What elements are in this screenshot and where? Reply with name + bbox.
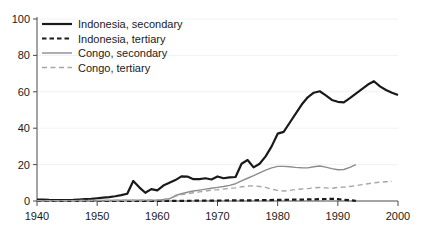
y-tick-label: 60 — [18, 86, 30, 98]
x-tick-label: 1960 — [145, 210, 169, 222]
x-tick-label: 1950 — [85, 210, 109, 222]
series-line-3 — [37, 181, 392, 200]
y-axis-ticks: 020406080100 — [12, 13, 37, 207]
x-tick-label: 1980 — [265, 210, 289, 222]
line-chart: 020406080100 194019501960197019801990200… — [0, 0, 427, 246]
axes — [37, 17, 398, 201]
series-line-2 — [37, 165, 356, 201]
legend-label-1: Indonesia, tertiary — [78, 33, 166, 45]
y-tick-label: 100 — [12, 13, 30, 25]
x-tick-label: 2000 — [386, 210, 410, 222]
x-tick-label: 1970 — [205, 210, 229, 222]
y-tick-label: 40 — [18, 122, 30, 134]
chart-canvas: 020406080100 194019501960197019801990200… — [0, 0, 427, 246]
legend-label-3: Congo, tertiary — [78, 62, 151, 74]
data-series — [37, 81, 398, 201]
legend-label-2: Congo, secondary — [78, 47, 168, 59]
x-tick-label: 1990 — [326, 210, 350, 222]
x-tick-label: 1940 — [25, 210, 49, 222]
chart-legend: Indonesia, secondaryIndonesia, tertiaryC… — [42, 18, 183, 74]
y-tick-label: 0 — [24, 195, 30, 207]
x-axis-ticks: 1940195019601970198019902000 — [25, 201, 410, 222]
y-tick-label: 20 — [18, 159, 30, 171]
legend-label-0: Indonesia, secondary — [78, 18, 183, 30]
series-line-0 — [37, 81, 398, 200]
y-tick-label: 80 — [18, 49, 30, 61]
